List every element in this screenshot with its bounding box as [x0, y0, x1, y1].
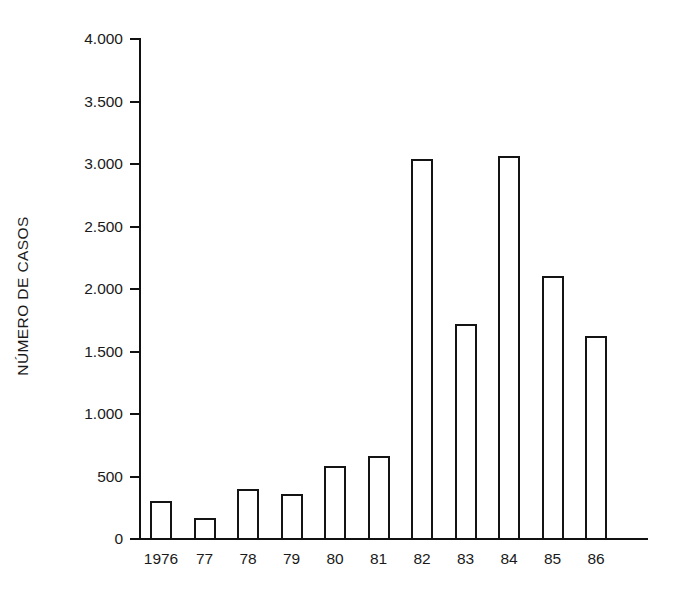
- y-axis-tick-mark: 2.500: [130, 226, 139, 228]
- x-axis-tick-label: 84: [500, 550, 517, 568]
- y-axis-line: [139, 38, 141, 538]
- bar: [368, 456, 390, 539]
- x-axis-tick-label: 1976: [144, 550, 178, 568]
- bar: [585, 336, 607, 539]
- x-axis-tick-label: 79: [283, 550, 300, 568]
- bar: [411, 159, 433, 538]
- y-axis-tick-mark: 2.000: [130, 288, 139, 290]
- y-axis-tick-label: 2.000: [84, 280, 123, 298]
- x-axis-line: [139, 538, 648, 540]
- y-axis-tick-mark: 1.000: [130, 413, 139, 415]
- plot-area: 05001.0001.5002.0002.5003.0003.5004.000 …: [139, 38, 648, 538]
- bar: [194, 518, 216, 538]
- x-axis-tick-label: 82: [413, 550, 430, 568]
- x-axis-tick-label: 81: [370, 550, 387, 568]
- bar: [542, 276, 564, 539]
- y-axis-tick-label: 500: [97, 468, 123, 486]
- x-axis-tick-label: 77: [196, 550, 213, 568]
- y-axis-tick-mark: 4.000: [130, 38, 139, 40]
- bar: [281, 494, 303, 538]
- bar-chart-figure: NÚMERO DE CASOS 05001.0001.5002.0002.500…: [0, 0, 678, 592]
- y-axis-tick-label: 3.000: [84, 155, 123, 173]
- x-axis-tick-label: 78: [239, 550, 256, 568]
- x-axis-tick-label: 85: [544, 550, 561, 568]
- y-axis-tick-label: 1.500: [84, 343, 123, 361]
- y-axis-tick-mark: 3.000: [130, 163, 139, 165]
- y-axis-tick-label: 1.000: [84, 405, 123, 423]
- y-axis-title: NÚMERO DE CASOS: [0, 0, 46, 592]
- y-axis-tick-mark: 0: [130, 538, 139, 540]
- bar: [455, 324, 477, 538]
- x-axis-tick-label: 86: [587, 550, 604, 568]
- bar: [324, 466, 346, 539]
- bar: [498, 156, 520, 539]
- y-axis-tick-label: 4.000: [84, 30, 123, 48]
- x-axis-tick-label: 80: [326, 550, 343, 568]
- y-axis-tick-label: 2.500: [84, 218, 123, 236]
- x-axis-tick-label: 83: [457, 550, 474, 568]
- bar: [150, 501, 172, 539]
- y-axis-tick-mark: 500: [130, 476, 139, 478]
- bar: [237, 489, 259, 538]
- y-axis-tick-mark: 1.500: [130, 351, 139, 353]
- y-axis-tick-label: 0: [114, 530, 123, 548]
- y-axis-tick-mark: 3.500: [130, 101, 139, 103]
- y-axis-tick-label: 3.500: [84, 93, 123, 111]
